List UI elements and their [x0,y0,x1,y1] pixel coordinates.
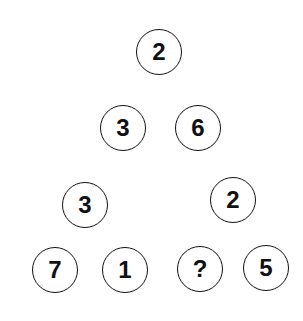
number-top-left: 3 [116,116,129,140]
circle-bottom-right-left-missing: ? [177,246,223,292]
circle-top-apex: 2 [136,29,182,75]
circle-bottom-left-apex: 3 [62,182,108,228]
number-top-apex: 2 [152,40,165,64]
circle-bottom-right-right: 5 [243,245,289,291]
circle-bottom-left-right: 1 [102,247,148,293]
number-bottom-right-apex: 2 [226,188,239,212]
circle-top-left: 3 [100,105,146,151]
circle-bottom-left-left: 7 [32,247,78,293]
question-mark-missing-number: ? [193,257,208,281]
circle-bottom-right-apex: 2 [210,177,256,223]
number-bottom-right-right: 5 [259,256,272,280]
circle-top-right: 6 [175,105,221,151]
number-top-right: 6 [191,116,204,140]
number-triangle-puzzle: 2 3 6 3 7 1 2 ? 5 [0,0,303,321]
number-bottom-left-left: 7 [48,258,61,282]
number-bottom-left-apex: 3 [78,193,91,217]
number-bottom-left-right: 1 [118,258,131,282]
